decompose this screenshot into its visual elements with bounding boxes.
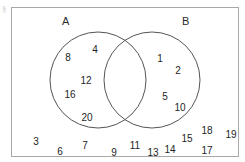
venn-element-7: 7 bbox=[82, 140, 88, 151]
venn-element-1: 1 bbox=[157, 53, 163, 64]
set-b-circle bbox=[104, 32, 200, 128]
venn-element-12: 12 bbox=[80, 75, 91, 86]
set-a-label: A bbox=[62, 15, 69, 27]
venn-element-10: 10 bbox=[174, 102, 185, 113]
venn-element-14: 14 bbox=[164, 144, 175, 155]
venn-element-13: 13 bbox=[147, 147, 158, 158]
venn-element-15: 15 bbox=[181, 133, 192, 144]
venn-element-4: 4 bbox=[92, 44, 98, 55]
venn-element-3: 3 bbox=[33, 136, 39, 147]
venn-element-16: 16 bbox=[64, 89, 75, 100]
venn-diagram-canvas: § A B 8412162012510367911131415171819 bbox=[0, 0, 245, 162]
set-b-label: B bbox=[182, 15, 189, 27]
venn-element-19: 19 bbox=[225, 129, 236, 140]
venn-element-5: 5 bbox=[162, 91, 168, 102]
venn-element-17: 17 bbox=[201, 145, 212, 156]
venn-element-11: 11 bbox=[130, 140, 140, 151]
venn-element-8: 8 bbox=[65, 52, 71, 63]
venn-element-6: 6 bbox=[57, 146, 63, 157]
venn-element-2: 2 bbox=[175, 65, 181, 76]
venn-element-20: 20 bbox=[81, 112, 92, 123]
venn-element-18: 18 bbox=[201, 125, 212, 136]
venn-element-9: 9 bbox=[111, 147, 117, 158]
